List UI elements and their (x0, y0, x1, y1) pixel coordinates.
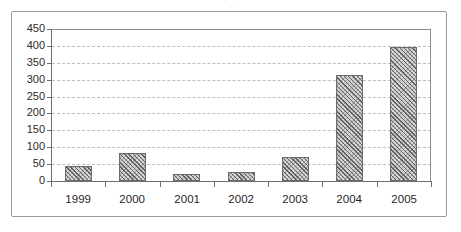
y-tick-label-wrap: 400 (11, 40, 45, 51)
x-tick-mark (51, 182, 52, 187)
y-tick-label: 150 (15, 124, 45, 135)
y-tick-label: 400 (15, 40, 45, 51)
y-tick-label: 300 (15, 74, 45, 85)
x-axis-line (51, 181, 432, 182)
y-tick-label-wrap: 350 (11, 57, 45, 68)
y-tick-label: 350 (15, 57, 45, 68)
y-tick-label: 200 (15, 107, 45, 118)
y-tick-label: 100 (15, 141, 45, 152)
x-tick-label: 2002 (214, 192, 268, 206)
x-tick-mark (377, 182, 378, 187)
bar (65, 166, 92, 181)
chart-page: ( ) 050100150200250300350400450 19992000… (0, 0, 461, 232)
bar (228, 172, 255, 181)
x-tick-label: 1999 (51, 192, 105, 206)
y-tick-label-wrap: 300 (11, 74, 45, 85)
cut-off-title-text: ( ) (0, 0, 461, 2)
x-tick-label: 2000 (105, 192, 159, 206)
bar (119, 153, 146, 181)
x-tick-label: 2004 (322, 192, 376, 206)
y-tick-label: 450 (15, 23, 45, 34)
y-tick-label-wrap: 0 (11, 175, 45, 186)
x-tick-mark (431, 182, 432, 187)
bar (173, 174, 200, 181)
x-tick-mark (160, 182, 161, 187)
y-tick-label-wrap: 250 (11, 91, 45, 102)
y-tick-label: 250 (15, 91, 45, 102)
bar-chart: 050100150200250300350400450 199920002001… (11, 11, 447, 217)
x-tick-label: 2005 (377, 192, 431, 206)
x-tick-mark (105, 182, 106, 187)
y-tick-label-wrap: 450 (11, 23, 45, 34)
bar-group (51, 29, 431, 181)
y-tick-label-wrap: 200 (11, 107, 45, 118)
x-tick-label: 2003 (268, 192, 322, 206)
x-tick-mark (214, 182, 215, 187)
y-tick-label-wrap: 150 (11, 124, 45, 135)
y-tick-label-wrap: 50 (11, 158, 45, 169)
bar (390, 47, 417, 181)
y-tick-label: 50 (15, 158, 45, 169)
y-tick-label: 0 (15, 175, 45, 186)
x-tick-label: 2001 (160, 192, 214, 206)
x-tick-mark (268, 182, 269, 187)
x-tick-mark (322, 182, 323, 187)
bar (282, 157, 309, 181)
y-tick-label-wrap: 100 (11, 141, 45, 152)
bar (336, 75, 363, 181)
